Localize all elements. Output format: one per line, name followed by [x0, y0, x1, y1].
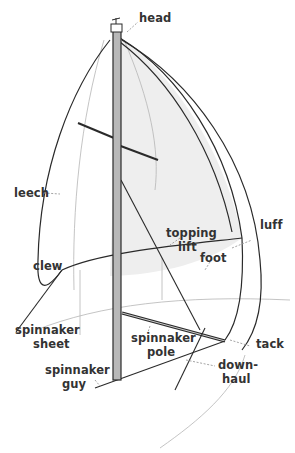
spinnaker-foot-lower: [225, 238, 242, 340]
label-spinnaker-guy-line1: spinnaker: [45, 363, 110, 377]
spinnaker-diagram: head leech topping lift luff foot clew s…: [0, 0, 295, 453]
masthead-wind-indicator-icon: [112, 18, 120, 24]
head-leader: [127, 22, 138, 32]
label-downhaul-line1: down-: [218, 358, 258, 372]
label-clew: clew: [33, 259, 63, 273]
label-spinnaker-guy-line2: guy: [62, 377, 87, 391]
label-spinnaker-sheet-line1: spinnaker: [15, 323, 80, 337]
label-topping-lift-line1: topping: [166, 226, 217, 240]
label-foot: foot: [200, 251, 227, 265]
downhaul-leader: [186, 360, 215, 366]
mast-cap: [111, 24, 122, 32]
label-tack: tack: [256, 337, 284, 351]
label-spinnaker-pole-line2: pole: [147, 345, 175, 359]
spinnaker-guy-leader: [95, 380, 100, 386]
label-luff: luff: [260, 218, 283, 232]
label-spinnaker-sheet-line2: sheet: [33, 337, 70, 351]
label-topping-lift-line2: lift: [178, 240, 197, 254]
label-leech: leech: [14, 186, 49, 200]
mast: [113, 28, 121, 380]
label-head: head: [139, 11, 171, 25]
shroud-line: [74, 40, 104, 290]
label-spinnaker-pole-line1: spinnaker: [131, 331, 196, 345]
label-downhaul-line2: haul: [222, 372, 250, 386]
